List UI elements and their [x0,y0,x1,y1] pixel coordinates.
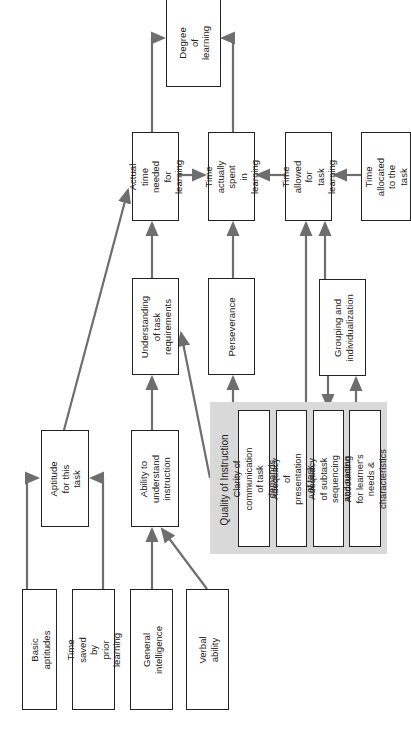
node-basic-aptitudes: Basic aptitudes [22,589,57,710]
node-label: Grouping and individualization [331,294,354,362]
node-label: Ability to understand instruction [138,454,173,502]
node-label: Degree of learning [176,25,211,59]
node-ability-understand: Ability to understand instruction [131,430,179,527]
node-label: Understanding of task requirements [138,295,173,357]
node-label: General intelligence [140,625,163,673]
quality-item-presentation: Adequacy of presentation of task [276,410,307,547]
node-label: Basic aptitudes [28,630,51,669]
quality-of-instruction-panel: Quality of Instruction Clarity of commun… [210,402,387,554]
node-time-saved: Time saved by prior learning [72,589,115,710]
node-aptitude: Aptitude for this task [41,430,89,527]
node-label: Aptitude for this task [48,461,83,496]
quality-item-label: Accounting for learner's needs & charact… [342,449,388,509]
node-degree-of-learning: Degree of learning [166,0,221,87]
panel-title: Quality of Instruction [219,434,230,525]
node-time-allocated: Time allocated to the task [361,132,411,221]
quality-item-clarity: Clarity of communication of task demands [238,410,270,547]
node-time-allowed: Time allowed for task learning [285,132,332,221]
node-grouping: Grouping and individualization [319,279,366,376]
quality-item-sequencing: Adequacy of subtask sequencing and pacin… [313,410,344,547]
node-verbal-ability: Verbal ability [186,589,229,710]
node-label: Actual time needed for learning [127,159,185,193]
node-understanding-task: Understanding of task requirements [132,278,179,375]
node-label: Time allowed for task learning [280,159,338,193]
node-general-intelligence: General intelligence [130,589,173,710]
node-label: Time actually spent in learning [203,159,261,193]
node-actual-time-needed: Actual time needed for learning [132,132,179,221]
node-label: Time saved by prior learning [65,632,123,666]
node-label: Perseverance [226,297,238,356]
node-perseverance: Perseverance [208,278,255,375]
quality-item-learner-needs: Accounting for learner's needs & charact… [349,410,381,547]
node-label: Verbal ability [196,636,219,663]
node-label: Time allocated to the task [363,157,409,195]
node-time-actually-spent: Time actually spent in learning [208,132,255,221]
